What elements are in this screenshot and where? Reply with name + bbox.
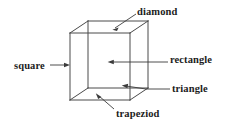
leader-line-trapeziod <box>99 96 114 109</box>
label-square: square <box>14 61 45 72</box>
leader-rectangle <box>108 60 168 65</box>
leader-square <box>50 63 70 67</box>
label-trapeziod: trapeziod <box>116 109 159 120</box>
leader-arrowhead-trapeziod <box>96 93 102 99</box>
label-diamond: diamond <box>137 7 177 18</box>
cube-edge-depth-top-right <box>130 21 148 33</box>
cube-edge-depth-bottom-right <box>130 88 148 100</box>
leader-trapeziod <box>96 93 114 109</box>
label-triangle: triangle <box>172 84 208 95</box>
cube-wireframe <box>70 21 148 100</box>
leader-arrowhead-rectangle <box>108 60 114 65</box>
cube-edge-depth-top-left <box>70 21 88 33</box>
leader-diamond <box>112 14 136 31</box>
leader-arrowhead-square <box>64 63 70 67</box>
cube-shape-diagram: diamond square rectangle triangle trapez… <box>0 0 226 127</box>
cube-edge-depth-bottom-left <box>70 88 88 100</box>
label-rectangle: rectangle <box>170 55 212 66</box>
